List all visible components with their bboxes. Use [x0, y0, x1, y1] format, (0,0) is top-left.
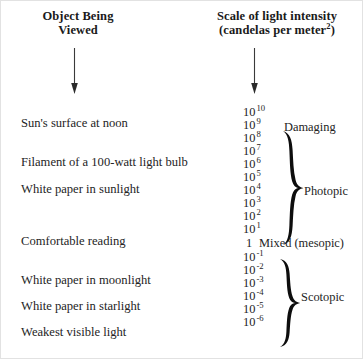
right-column-down-arrow-icon	[249, 48, 260, 94]
right-header-line1: Scale of light intensity	[217, 9, 337, 23]
scale-tick-base: 10	[243, 144, 255, 158]
region-label-text: Mixed (mesopic)	[259, 236, 344, 250]
object-label: Sun's surface at noon	[21, 117, 128, 130]
scale-tick-exponent: 1	[256, 220, 260, 230]
scale-tick-base: 10	[243, 209, 255, 223]
scale-tick-base: 10	[243, 105, 255, 119]
right-header-units: (candelas per meter	[219, 23, 326, 37]
scale-tick-exponent: 2	[256, 207, 260, 217]
left-column-header: Object Being Viewed	[13, 9, 143, 37]
left-header-line2: Viewed	[13, 23, 143, 37]
scale-tick-base: 10	[243, 157, 255, 171]
scale-tick-base: 10	[243, 263, 255, 277]
scale-tick-unity: 1	[246, 237, 252, 250]
scotopic-brace-icon	[277, 257, 303, 349]
scale-tick-base: 10	[243, 315, 255, 329]
right-header-paren: )	[331, 23, 335, 37]
scale-tick-base: 10	[243, 302, 255, 316]
region-label-scotopic: Scotopic	[301, 291, 344, 304]
scale-tick-exponent: 9	[256, 116, 260, 126]
region-label-text: Scotopic	[301, 290, 344, 304]
object-label: Comfortable reading	[21, 235, 126, 248]
scale-tick-exponent: -6	[256, 313, 263, 323]
left-column-down-arrow-icon	[69, 48, 80, 94]
scale-tick-exponent: 5	[256, 168, 260, 178]
object-label-text: White paper in starlight	[21, 299, 140, 313]
scale-tick-base: 10	[243, 276, 255, 290]
scale-tick-exponent: 7	[256, 142, 260, 152]
region-label-mesopic: Mixed (mesopic)	[259, 237, 344, 250]
light-intensity-figure: Object Being Viewed Scale of light inten…	[0, 0, 363, 359]
region-label-damaging: Damaging	[284, 121, 336, 134]
scale-tick-base: 10	[243, 289, 255, 303]
scale-tick-base: 1	[246, 236, 252, 250]
right-header-line2: (candelas per meter2)	[197, 23, 357, 37]
object-label: White paper in moonlight	[21, 274, 151, 287]
scale-tick-exponent: -2	[256, 261, 263, 271]
region-label-photopic: Photopic	[304, 185, 348, 198]
object-label-text: Weakest visible light	[21, 325, 126, 339]
scale-tick: 10-6	[243, 316, 264, 329]
region-label-text: Damaging	[284, 120, 336, 134]
region-label-text: Photopic	[304, 184, 348, 198]
object-label: White paper in starlight	[21, 300, 140, 313]
object-label-text: Filament of a 100-watt light bulb	[21, 155, 188, 169]
object-label: Filament of a 100-watt light bulb	[21, 156, 188, 169]
object-label: White paper in sunlight	[21, 183, 140, 196]
scale-tick-base: 10	[243, 222, 255, 236]
scale-tick-base: 10	[243, 250, 255, 264]
scale-tick-exponent: -5	[256, 300, 263, 310]
scale-tick-base: 10	[243, 118, 255, 132]
scale-tick-exponent: 8	[256, 129, 260, 139]
object-label-text: White paper in moonlight	[21, 273, 151, 287]
left-header-line1: Object Being	[43, 9, 114, 23]
scale-tick-exponent: 10	[256, 103, 265, 113]
scale-tick-exponent: -3	[256, 274, 263, 284]
photopic-brace-icon	[280, 129, 306, 247]
object-label-text: Comfortable reading	[21, 234, 126, 248]
scale-tick-exponent: 6	[256, 155, 260, 165]
scale-tick-exponent: -4	[256, 287, 263, 297]
scale-tick-base: 10	[243, 196, 255, 210]
right-column-header: Scale of light intensity (candelas per m…	[197, 9, 357, 37]
object-label-text: Sun's surface at noon	[21, 116, 128, 130]
scale-tick-exponent: 3	[256, 194, 260, 204]
object-label: Weakest visible light	[21, 326, 126, 339]
scale-tick: 101	[243, 223, 261, 236]
scale-tick-exponent: 4	[256, 181, 260, 191]
scale-tick-base: 10	[243, 170, 255, 184]
scale-tick-base: 10	[243, 183, 255, 197]
object-label-text: White paper in sunlight	[21, 182, 140, 196]
scale-tick-base: 10	[243, 131, 255, 145]
